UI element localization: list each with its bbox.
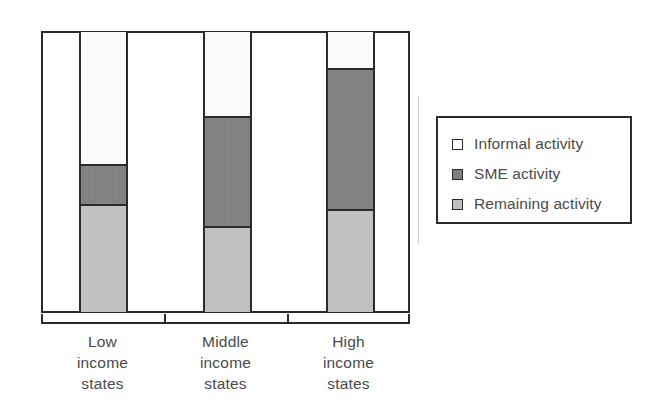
bar-segment-remaining-activity[interactable] [79, 206, 128, 313]
bar-segment-sme-activity[interactable] [326, 68, 375, 212]
bar-low-income-states[interactable] [79, 31, 128, 313]
label-line-1: Low [41, 331, 164, 352]
bar-high-income-states[interactable] [326, 31, 375, 313]
label-line-2: income [164, 352, 287, 373]
x-axis-label-middle-income-states: Middle income states [164, 331, 287, 394]
legend-swatch-icon [452, 169, 463, 180]
x-axis-line [41, 322, 410, 324]
scan-edge-artifact [418, 96, 419, 244]
label-line-3: states [287, 373, 410, 394]
x-axis-label-low-income-states: Low income states [41, 331, 164, 394]
x-axis-tick [287, 314, 289, 323]
bars-layer [41, 31, 410, 313]
label-line-1: High [287, 331, 410, 352]
legend-item-informal-activity[interactable]: Informal activity [452, 130, 630, 158]
label-line-1: Middle [164, 331, 287, 352]
x-axis-category-labels: Low income states Middle income states H… [41, 331, 410, 403]
bar-segment-informal-activity[interactable] [79, 31, 128, 164]
bar-segment-informal-activity[interactable] [203, 31, 252, 116]
label-line-2: income [287, 352, 410, 373]
bar-segment-remaining-activity[interactable] [326, 211, 375, 313]
stacked-bar-chart-figure: Low income states Middle income states H… [0, 0, 660, 409]
chart-legend: Informal activity SME activity Remaining… [436, 116, 632, 224]
legend-swatch-icon [452, 139, 463, 150]
label-line-2: income [41, 352, 164, 373]
x-axis-tick [164, 314, 166, 323]
legend-label: Informal activity [474, 135, 583, 153]
legend-swatch-icon [452, 199, 463, 210]
bar-segment-sme-activity[interactable] [203, 116, 252, 229]
legend-label: Remaining activity [474, 195, 602, 213]
legend-label: SME activity [474, 165, 560, 183]
x-axis-tick [408, 314, 410, 323]
legend-item-remaining-activity[interactable]: Remaining activity [452, 190, 630, 218]
bar-segment-remaining-activity[interactable] [203, 228, 252, 313]
bar-segment-sme-activity[interactable] [79, 164, 128, 206]
legend-item-sme-activity[interactable]: SME activity [452, 160, 630, 188]
label-line-3: states [41, 373, 164, 394]
x-axis-tick [41, 314, 43, 323]
bar-middle-income-states[interactable] [203, 31, 252, 313]
bar-segment-informal-activity[interactable] [326, 31, 375, 68]
label-line-3: states [164, 373, 287, 394]
x-axis-label-high-income-states: High income states [287, 331, 410, 394]
